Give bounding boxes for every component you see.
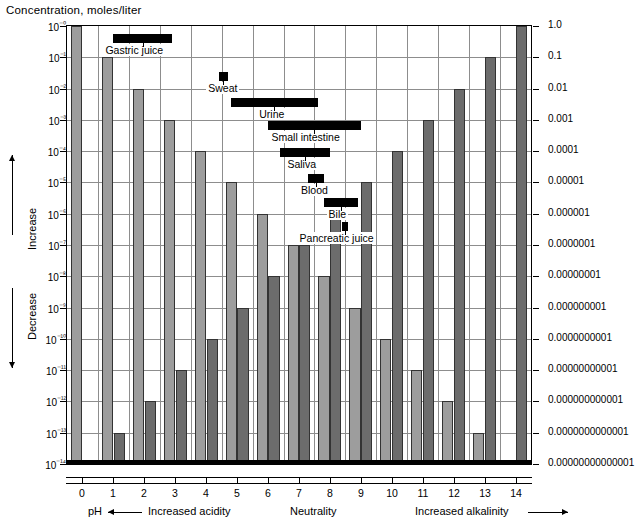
y-tick-mark-left (60, 308, 66, 309)
x-tick-label-12: 12 (439, 487, 469, 499)
x-tick-label-3: 3 (160, 487, 190, 499)
annotation-tick (223, 81, 224, 85)
alkalinity-arrow-right (528, 512, 568, 513)
y-tick-mark-right (533, 245, 539, 246)
y-tick-mark-right (533, 57, 539, 58)
x-tick-mark (485, 477, 486, 483)
y-tick-label-right: 0.00000000000001 (548, 458, 634, 468)
bar-h-plus-ph-0 (71, 26, 82, 464)
annotation-bar-urine (231, 98, 318, 107)
annotation-label-urine: Urine (257, 108, 286, 120)
annotation-label-small-intestine: Small intestine (269, 131, 341, 143)
bar-h-plus-ph-12 (442, 401, 453, 464)
bar-h-plus-ph-9 (349, 308, 360, 464)
x-tick-mark (516, 477, 517, 483)
decrease-arrow-down (12, 288, 13, 368)
annotation-label-saliva: Saliva (285, 158, 318, 170)
x-tick-label-5: 5 (222, 487, 252, 499)
y-tick-label-right: 0.001 (548, 114, 573, 124)
gridline-vertical (160, 26, 161, 464)
y-tick-mark-right (533, 26, 539, 27)
y-tick-mark-right (533, 151, 539, 152)
x-tick-mark (454, 477, 455, 483)
annotation-tick (305, 157, 306, 161)
ph-concentration-chart: Concentration, moles/liter =[H⁺] =[OH⁻] … (0, 0, 638, 525)
x-tick-label-11: 11 (408, 487, 438, 499)
y-tick-mark-left (60, 464, 66, 465)
bar-h-plus-ph-4 (195, 151, 206, 464)
x-tick-label-6: 6 (253, 487, 283, 499)
gridline-horizontal (67, 57, 531, 58)
acidity-arrow-left (108, 512, 142, 513)
y-tick-label-right: 0.00000000001 (548, 364, 618, 374)
bar-oh-minus-ph-12 (454, 89, 465, 464)
bar-oh-minus-ph-9 (361, 182, 372, 464)
annotation-bar-small-intestine (268, 121, 361, 130)
bar-h-plus-ph-8 (318, 276, 329, 464)
bar-h-plus-ph-10 (380, 339, 391, 464)
annotation-label-bile: Bile (327, 208, 349, 220)
x-tick-mark (423, 477, 424, 483)
bar-oh-minus-ph-10 (392, 151, 403, 464)
y-tick-mark-left (60, 89, 66, 90)
x-tick-label-4: 4 (191, 487, 221, 499)
gridline-vertical (191, 26, 192, 464)
y-tick-mark-left (60, 339, 66, 340)
y-caption-decrease: Decrease (26, 293, 38, 340)
y-tick-label-right: 0.01 (548, 83, 567, 93)
bar-oh-minus-ph-8 (330, 214, 341, 464)
y-tick-mark-right (533, 89, 539, 90)
annotation-label-gastric-juice: Gastric juice (103, 44, 165, 56)
y-tick-label-right: 0.0000000001 (548, 333, 612, 343)
bar-h-plus-ph-1 (102, 57, 113, 464)
gridline-vertical (284, 26, 285, 464)
y-tick-mark-right (533, 276, 539, 277)
gridline-vertical (129, 26, 130, 464)
y-tick-label-right: 0.000000001 (548, 302, 606, 312)
annotation-tick (143, 43, 144, 47)
x-caption-acidity: Increased acidity (148, 505, 231, 517)
y-tick-mark-left (60, 182, 66, 183)
y-tick-label-right: 0.000001 (548, 208, 590, 218)
y-tick-mark-right (533, 370, 539, 371)
annotation-bar-sweat (219, 72, 228, 81)
y-tick-mark-right (533, 308, 539, 309)
x-tick-mark (330, 477, 331, 483)
y-tick-mark-left (60, 245, 66, 246)
bar-h-plus-ph-2 (133, 89, 144, 464)
y-tick-label-right: 0.0001 (548, 145, 579, 155)
x-tick-mark (237, 477, 238, 483)
bar-oh-minus-ph-4 (207, 339, 218, 464)
x-caption-alkalinity: Increased alkalinity (415, 505, 509, 517)
baseline-rule (67, 460, 531, 464)
x-tick-mark (82, 477, 83, 483)
gridline-vertical (469, 26, 470, 464)
y-tick-label-right: 0.0000001 (548, 239, 595, 249)
bar-oh-minus-ph-2 (145, 401, 156, 464)
y-tick-mark-right (533, 120, 539, 121)
y-tick-mark-right (533, 339, 539, 340)
y-tick-label-left: 10⁻⁵ (48, 176, 66, 189)
bar-oh-minus-ph-11 (423, 120, 434, 464)
bar-h-plus-ph-7 (288, 245, 299, 464)
bar-h-plus-ph-6 (257, 214, 268, 464)
annotation-bar-bile (324, 198, 358, 207)
annotation-tick (341, 207, 342, 211)
bar-h-plus-ph-5 (226, 182, 237, 464)
bar-oh-minus-ph-3 (176, 370, 187, 464)
y-tick-mark-left (60, 433, 66, 434)
gridline-vertical (253, 26, 254, 464)
annotation-tick (316, 183, 317, 187)
bar-h-plus-ph-11 (411, 370, 422, 464)
x-tick-label-14: 14 (501, 487, 531, 499)
y-tick-label-right: 1.0 (548, 20, 562, 30)
y-tick-mark-left (60, 57, 66, 58)
x-tick-label-7: 7 (284, 487, 314, 499)
x-tick-mark (268, 477, 269, 483)
annotation-label-blood: Blood (299, 184, 330, 196)
x-tick-label-13: 13 (470, 487, 500, 499)
x-tick-label-10: 10 (377, 487, 407, 499)
y-tick-label-right: 0.00000001 (548, 270, 601, 280)
x-caption-neutrality: Neutrality (290, 505, 336, 517)
gridline-vertical (98, 26, 99, 464)
